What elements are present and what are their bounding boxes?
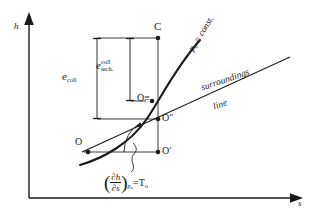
diagram-vector-layer bbox=[0, 0, 316, 216]
label-e-coll-tech-sub-line2: tech. bbox=[101, 65, 113, 72]
formula-result: To bbox=[139, 177, 148, 189]
diagram-canvas: h s C O≡ O″ O′ O ecoll ecoll tech. po = … bbox=[0, 0, 316, 216]
point-o-triple-prime-label: O≡ bbox=[137, 93, 149, 103]
marker-point-o bbox=[86, 150, 91, 155]
formula-numerator: ∂h bbox=[110, 172, 121, 183]
point-c-label: C bbox=[154, 21, 161, 32]
formula-result-index: o bbox=[145, 181, 148, 188]
formula-fraction: ∂h ∂s bbox=[110, 172, 121, 193]
label-e-coll: ecoll bbox=[62, 71, 77, 83]
marker-point-o2 bbox=[156, 117, 161, 122]
formula-leader-line bbox=[131, 143, 136, 172]
marker-point-o3 bbox=[150, 99, 155, 104]
label-e-coll-tech: ecoll tech. bbox=[96, 59, 113, 72]
point-o-prime-marks: ′ bbox=[169, 145, 171, 156]
label-e-coll-subscript: coll bbox=[67, 77, 77, 84]
point-o-prime-label: O′ bbox=[162, 146, 171, 156]
bracket-e-coll bbox=[93, 38, 101, 119]
enthalpy-axis-arrowhead bbox=[24, 12, 34, 25]
marker-point-o1 bbox=[156, 150, 161, 155]
point-o-label: O bbox=[75, 137, 82, 147]
angle-arc-arrowhead bbox=[136, 122, 142, 127]
entropy-axis-label: s bbox=[298, 199, 302, 208]
angle-arc bbox=[124, 123, 140, 152]
formula-partial-derivative: ( ∂h ∂s )po=To bbox=[104, 172, 148, 193]
axes-group bbox=[24, 12, 303, 203]
formula-denominator: ∂s bbox=[110, 183, 121, 193]
bracket-e-coll-tech bbox=[126, 38, 134, 101]
marker-point-c bbox=[156, 36, 161, 41]
point-o-double-prime-label: O″ bbox=[162, 113, 173, 123]
enthalpy-axis-label: h bbox=[14, 22, 19, 31]
point-o-triple-prime-marks: ≡ bbox=[144, 92, 149, 103]
label-e-coll-tech-subscript: coll tech. bbox=[101, 59, 113, 72]
point-o-double-prime-marks: ″ bbox=[169, 112, 173, 123]
